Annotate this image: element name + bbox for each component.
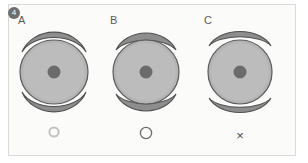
pupil-dot-c — [234, 66, 247, 79]
eye-diagram-a — [6, 22, 102, 122]
result-cross: × — [236, 128, 244, 143]
result-symbol-a — [6, 125, 102, 147]
diagram-column-c: C × — [192, 0, 288, 152]
pupil-dot-a — [48, 66, 61, 79]
result-ring-faint — [49, 127, 58, 136]
result-symbol-b — [98, 125, 194, 147]
eye-diagram-c — [192, 22, 288, 122]
figure-root: 4 A — [0, 0, 308, 163]
pupil-dot-b — [140, 66, 153, 79]
result-ring-open — [140, 127, 151, 138]
result-symbol-c: × — [192, 125, 288, 147]
eye-diagram-b — [98, 22, 194, 122]
diagram-column-a: A — [6, 0, 102, 152]
diagram-column-b: B — [98, 0, 194, 152]
